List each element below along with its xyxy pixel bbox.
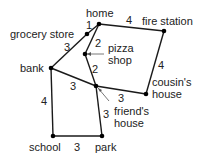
node-grocery-store: [85, 32, 90, 37]
label-park: park: [95, 141, 117, 153]
label-cousin-line2: house: [152, 88, 182, 100]
label-grocery-store: grocery store: [10, 28, 74, 40]
node-cousins-house: [144, 92, 149, 97]
label-bank: bank: [20, 62, 44, 74]
weight-school-park: 3: [74, 141, 80, 153]
node-park: [100, 134, 105, 139]
node-pizza-shop: [83, 52, 88, 57]
weight-pizza-friend: 2: [92, 63, 98, 75]
weight-friend-cousin: 3: [118, 92, 124, 104]
weight-bank-school: 4: [41, 95, 47, 107]
node-friends-house: [94, 84, 99, 89]
map-graph-diagram: home fire station grocery store pizza sh…: [0, 0, 212, 158]
label-home: home: [86, 7, 114, 19]
pizza-pointer-arrow-icon: [87, 52, 91, 56]
label-cousin-line1: cousin's: [152, 76, 192, 88]
node-home: [97, 22, 102, 27]
weight-home-grocery: 1: [86, 19, 92, 31]
label-friend-line1: friend's: [114, 105, 150, 117]
label-school: school: [29, 141, 61, 153]
weight-home-pizza: 2: [95, 37, 101, 49]
edge-bank-school: [51, 68, 53, 136]
label-friend-line2: house: [114, 117, 144, 129]
node-bank: [49, 66, 54, 71]
label-pizza-line2: shop: [108, 54, 132, 66]
label-pizza-line1: pizza: [108, 42, 135, 54]
node-school: [51, 134, 56, 139]
edge-friend-park: [96, 86, 102, 136]
weight-bank-friend: 3: [70, 80, 76, 92]
label-fire-station: fire station: [142, 15, 193, 27]
weight-home-fire: 4: [126, 14, 132, 26]
weight-fire-cousin: 4: [158, 59, 164, 71]
weight-friend-park: 3: [103, 108, 109, 120]
node-fire-station: [162, 29, 167, 34]
weight-grocery-bank: 3: [64, 41, 70, 53]
